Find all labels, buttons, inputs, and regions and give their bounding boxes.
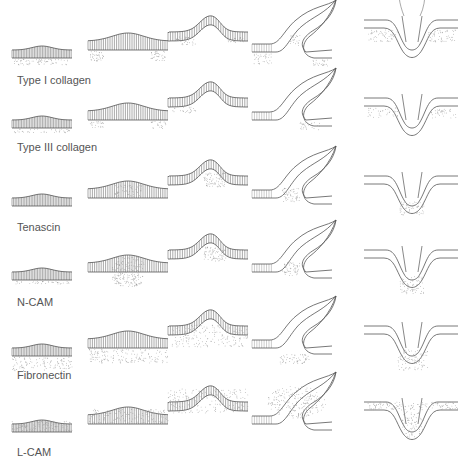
placode-late-drawing [88, 85, 178, 155]
long-bud-drawing [252, 0, 347, 72]
stage-placode-late [88, 389, 178, 459]
stage-follicle [364, 78, 459, 153]
row-label: L-CAM [17, 446, 51, 458]
follicle-drawing [364, 230, 459, 305]
follicle-drawing [364, 0, 459, 45]
row-label: Fibronectin [17, 369, 71, 381]
stage-short-bud [168, 377, 253, 442]
stage-short-bud [168, 301, 253, 366]
long-bud-drawing [252, 146, 347, 218]
short-bud-drawing [168, 151, 253, 216]
stage-long-bud [252, 0, 347, 72]
follicle-drawing [364, 78, 459, 153]
follicle-drawing [364, 306, 459, 381]
short-bud-drawing [168, 73, 253, 138]
figure-row [0, 374, 472, 444]
follicle-drawing [364, 382, 459, 457]
stage-short-bud [168, 7, 253, 72]
follicle-drawing [364, 156, 459, 231]
figure-row [0, 148, 472, 218]
stage-follicle [364, 382, 459, 457]
short-bud-drawing [168, 301, 253, 366]
row-label: N-CAM [17, 296, 53, 308]
row-label: Type III collagen [17, 141, 97, 153]
stage-follicle [364, 156, 459, 231]
stage-placode-late [88, 237, 178, 307]
stage-follicle [364, 306, 459, 381]
stage-long-bud [252, 68, 347, 140]
placode-late-drawing [88, 313, 178, 383]
stage-long-bud [252, 296, 347, 368]
placode-late-drawing [88, 237, 178, 307]
long-bud-drawing [252, 220, 347, 292]
stage-follicle [364, 0, 459, 45]
figure-row [0, 222, 472, 292]
stage-follicle [364, 230, 459, 305]
row-label: Type I collagen [17, 74, 91, 86]
stage-long-bud [252, 220, 347, 292]
placode-late-drawing [88, 389, 178, 459]
row-label: Tenascin [17, 221, 60, 233]
figure-row [0, 0, 472, 70]
short-bud-drawing [168, 377, 253, 442]
long-bud-drawing [252, 296, 347, 368]
figure-row [0, 298, 472, 368]
long-bud-drawing [252, 68, 347, 140]
stage-long-bud [252, 372, 347, 444]
short-bud-drawing [168, 225, 253, 290]
stage-short-bud [168, 151, 253, 216]
stage-short-bud [168, 73, 253, 138]
long-bud-drawing [252, 372, 347, 444]
stage-placode-late [88, 313, 178, 383]
stage-placode-late [88, 85, 178, 155]
short-bud-drawing [168, 7, 253, 72]
stage-long-bud [252, 146, 347, 218]
stage-short-bud [168, 225, 253, 290]
